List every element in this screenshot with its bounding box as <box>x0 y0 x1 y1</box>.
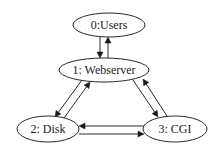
arrowhead-icon <box>105 37 111 43</box>
node-3: 3: CGI <box>143 116 207 142</box>
node-2: 2: Disk <box>17 116 79 142</box>
arrowhead-icon <box>84 82 90 89</box>
edge-1-to-3 <box>133 80 158 117</box>
node-0: 0:Users <box>73 13 145 37</box>
nodes-layer: 0:Users1: Webserver2: Disk3: CGI <box>17 13 207 142</box>
edge-0-to-1 <box>97 37 103 58</box>
graph-diagram: 0:Users1: Webserver2: Disk3: CGI <box>0 0 222 155</box>
node-label: 3: CGI <box>159 122 192 136</box>
edge-1-to-0 <box>105 37 111 58</box>
node-label: 0:Users <box>91 18 128 32</box>
arrowhead-icon <box>138 131 144 137</box>
edge-3-to-2 <box>79 123 144 129</box>
edge-2-to-3 <box>79 131 144 137</box>
node-label: 2: Disk <box>30 122 65 136</box>
edge-line <box>59 80 82 112</box>
edge-line <box>64 87 86 118</box>
node-label: 1: Webserver <box>72 63 135 77</box>
arrowhead-icon <box>97 52 103 58</box>
arrowhead-icon <box>143 79 149 86</box>
node-1: 1: Webserver <box>59 58 149 82</box>
edge-3-to-1 <box>143 79 167 116</box>
arrowhead-icon <box>152 110 158 117</box>
arrowhead-icon <box>79 123 85 129</box>
